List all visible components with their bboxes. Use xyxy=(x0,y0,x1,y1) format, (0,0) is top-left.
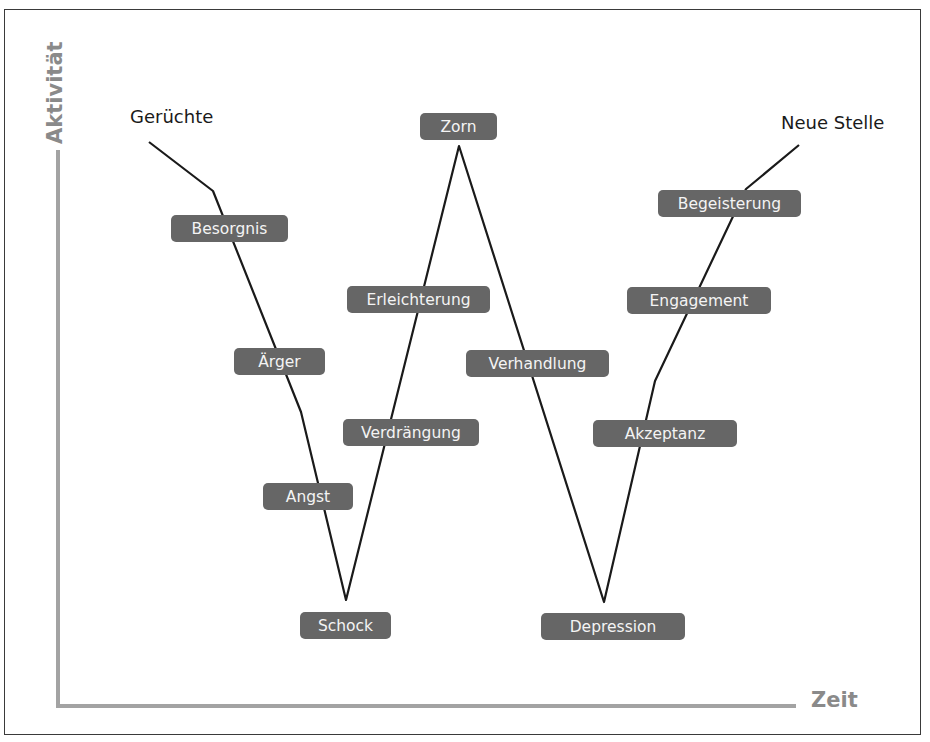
phase-erleichterung: Erleichterung xyxy=(347,286,490,313)
phase-akzeptanz: Akzeptanz xyxy=(593,420,737,447)
start-label: Gerüchte xyxy=(130,106,213,127)
phase-verhandlung: Verhandlung xyxy=(466,350,609,377)
phase-angst: Angst xyxy=(263,483,353,510)
phase-zorn: Zorn xyxy=(420,113,497,140)
phase-schock: Schock xyxy=(300,612,391,639)
phase-besorgnis: Besorgnis xyxy=(171,215,288,242)
phase-verdraengung: Verdrängung xyxy=(343,419,479,446)
end-label: Neue Stelle xyxy=(781,112,884,133)
phase-aerger: Ärger xyxy=(234,348,325,375)
phase-depression: Depression xyxy=(541,613,685,640)
phase-begeisterung: Begeisterung xyxy=(658,190,801,217)
phase-engagement: Engagement xyxy=(627,287,771,314)
